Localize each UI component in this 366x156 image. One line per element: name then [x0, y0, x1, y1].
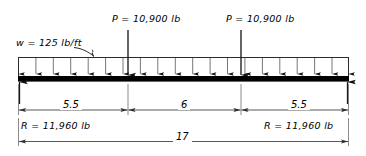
overall-dimension-label: 17 — [173, 132, 192, 142]
distributed-load-label: w = 125 lb/ft — [16, 38, 82, 48]
point-load-label-2: P = 10,900 lb — [226, 14, 295, 24]
point-load-label-1: P = 10,900 lb — [112, 14, 181, 24]
reaction-label-left: R = 11,960 lb — [21, 121, 90, 131]
dimension-label-center: 6 — [178, 100, 190, 110]
reaction-label-right: R = 11,960 lb — [264, 121, 333, 131]
distributed-load-arrows — [19, 58, 349, 74]
dimension-label-left: 5.5 — [60, 100, 82, 110]
beam-load-diagram: P = 10,900 lb P = 10,900 lb w = 125 lb/f… — [0, 0, 366, 156]
dimension-label-right: 5.5 — [288, 100, 310, 110]
beam-member — [18, 76, 349, 82]
distributed-load-leader — [74, 48, 94, 57]
